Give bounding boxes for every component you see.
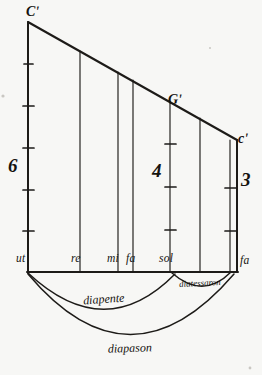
- note-label-sol: sol: [159, 252, 173, 264]
- numeral-four: 4: [151, 160, 162, 181]
- speck: [1, 94, 4, 97]
- note-label-fa: fa: [126, 252, 136, 265]
- paper-specks: [1, 47, 251, 369]
- numeral-three: 3: [240, 169, 251, 190]
- pitch-label-g-prime: Gʹ: [168, 92, 182, 107]
- note-label-re: re: [71, 252, 81, 264]
- speck: [209, 47, 211, 49]
- numeral-six: 6: [8, 155, 18, 176]
- note-label-ut: ut: [16, 252, 26, 264]
- arc-label-diapente: diapente: [83, 291, 126, 308]
- monochord-diagram: Cʹ Gʹ cʹ 6 4 3 ut re mi fa sol fa diapen…: [0, 0, 262, 375]
- speck: [249, 367, 252, 370]
- note-label-mi: mi: [107, 252, 119, 264]
- arc-label-diapason: diapason: [108, 340, 152, 356]
- diagram-canvas: Cʹ Gʹ cʹ 6 4 3 ut re mi fa sol fa diapen…: [0, 0, 262, 375]
- arc-label-diatessaron: diatessaron: [179, 277, 222, 289]
- note-label-fa-high: fa: [240, 254, 250, 267]
- pitch-label-c-lower-prime: cʹ: [238, 131, 248, 146]
- pitch-label-c-upper-prime: Cʹ: [26, 4, 39, 19]
